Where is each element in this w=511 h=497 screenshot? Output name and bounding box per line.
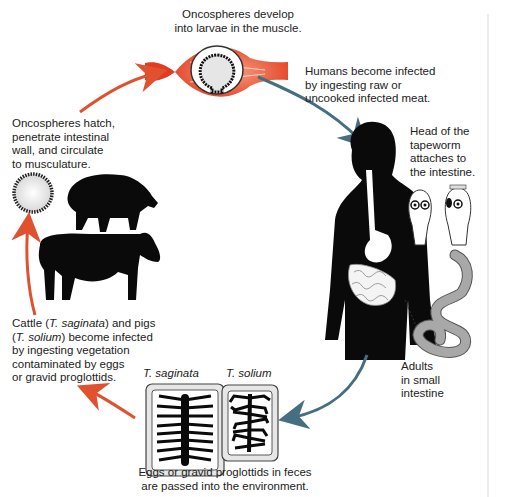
label-larvae: Oncospheres develop into larvae in the m… [158, 8, 318, 35]
label-eggs: Eggs or gravid proglottids in feces are … [110, 466, 340, 493]
oncosphere-icon [14, 174, 52, 212]
t-solium-proglottid-icon [222, 385, 278, 461]
page-edge-divider [487, 14, 489, 497]
label-adults: Adults in small intestine [401, 360, 471, 401]
label-hatch: Oncospheres hatch, penetrate intestinal … [12, 117, 172, 171]
arrow-to-animals [88, 390, 135, 418]
label-t-saginata: T. saginata [143, 367, 199, 379]
scolex-icons [409, 185, 471, 245]
label-human-infection: Humans become infected by ingesting raw … [305, 65, 475, 106]
tapeworm-life-cycle-diagram: Oncospheres develop into larvae in the m… [0, 0, 511, 497]
arrow-to-oncosphere [27, 224, 35, 315]
label-t-solium: T. solium [226, 367, 272, 379]
arrow-to-proglottids [290, 355, 367, 418]
pig-silhouette-icon [67, 174, 158, 232]
label-head-attach: Head of the tapeworm attaches to the int… [410, 125, 490, 179]
muscle-larva-icon [145, 46, 288, 97]
cow-silhouette-icon [39, 233, 160, 300]
t-saginata-proglottid-icon [146, 384, 224, 476]
arrow-to-muscle [80, 73, 156, 112]
